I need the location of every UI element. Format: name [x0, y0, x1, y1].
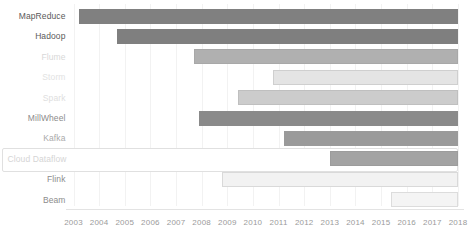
timeline-bar-storm[interactable]: [273, 70, 458, 85]
x-tick-2014: 2014: [346, 218, 365, 227]
timeline-bar-cloud-dataflow[interactable]: [330, 151, 458, 166]
row-label-spark: Spark: [43, 88, 66, 108]
x-tick-2017: 2017: [423, 218, 442, 227]
x-tick-2004: 2004: [90, 218, 109, 227]
row-label-beam: Beam: [43, 190, 66, 210]
x-tick-2010: 2010: [244, 218, 263, 227]
row-label-kafka: Kafka: [43, 128, 65, 148]
timeline-row[interactable]: Flink: [74, 169, 459, 189]
timeline-bar-millwheel[interactable]: [199, 111, 458, 126]
timeline-bar-spark[interactable]: [238, 90, 458, 105]
timeline-row[interactable]: Hadoop: [74, 26, 459, 46]
gantt-timeline-chart: MapReduceHadoopFlumeStormSparkMillWheelK…: [0, 0, 470, 240]
x-tick-2003: 2003: [64, 218, 83, 227]
timeline-row[interactable]: MapReduce: [74, 6, 459, 26]
row-label-hadoop: Hadoop: [35, 26, 65, 46]
plot-area: MapReduceHadoopFlumeStormSparkMillWheelK…: [74, 4, 459, 206]
timeline-row[interactable]: Flume: [74, 47, 459, 67]
timeline-bar-flume[interactable]: [194, 49, 458, 64]
x-tick-2008: 2008: [192, 218, 211, 227]
x-axis-tick-labels: 2003200420052006200720082009201020112012…: [74, 218, 459, 232]
row-label-flink: Flink: [47, 169, 65, 189]
x-tick-2007: 2007: [167, 218, 186, 227]
x-tick-2009: 2009: [218, 218, 237, 227]
row-label-flume: Flume: [41, 47, 65, 67]
timeline-bar-flink[interactable]: [222, 172, 458, 187]
timeline-row[interactable]: Beam: [74, 190, 459, 210]
row-label-storm: Storm: [42, 67, 65, 87]
x-tick-2005: 2005: [115, 218, 134, 227]
timeline-row[interactable]: MillWheel: [74, 108, 459, 128]
timeline-row[interactable]: Cloud Dataflow: [74, 149, 459, 169]
row-label-cloud-dataflow: Cloud Dataflow: [8, 149, 67, 169]
row-label-mapreduce: MapReduce: [19, 6, 66, 26]
timeline-bar-kafka[interactable]: [284, 131, 458, 146]
x-tick-2016: 2016: [397, 218, 416, 227]
x-tick-2012: 2012: [295, 218, 314, 227]
x-tick-2013: 2013: [321, 218, 340, 227]
timeline-bar-beam[interactable]: [391, 192, 458, 207]
x-axis-line: [66, 209, 464, 210]
timeline-row[interactable]: Storm: [74, 67, 459, 87]
x-tick-2011: 2011: [270, 218, 288, 227]
timeline-bar-hadoop[interactable]: [117, 29, 458, 44]
timeline-row[interactable]: Spark: [74, 88, 459, 108]
timeline-bar-mapreduce[interactable]: [79, 9, 458, 24]
row-label-millwheel: MillWheel: [28, 108, 66, 128]
x-tick-2018: 2018: [449, 218, 468, 227]
gridline-2018: [458, 4, 459, 206]
x-tick-2006: 2006: [141, 218, 160, 227]
timeline-row[interactable]: Kafka: [74, 128, 459, 148]
x-tick-2015: 2015: [372, 218, 391, 227]
